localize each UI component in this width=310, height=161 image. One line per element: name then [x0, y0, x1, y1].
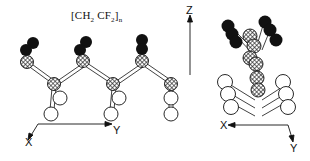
right-view-axes [228, 123, 294, 143]
right-view-molecule [218, 16, 296, 117]
left-view-molecule [20, 34, 178, 121]
molecule-diagram [0, 0, 310, 161]
